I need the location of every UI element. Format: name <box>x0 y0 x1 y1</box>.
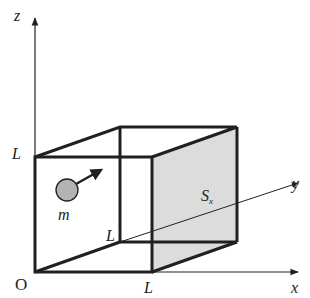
origin-label: O <box>15 276 27 293</box>
x-side-length-label: L <box>144 280 153 296</box>
face-sx-subscript: x <box>209 196 213 206</box>
particle-m <box>56 179 78 201</box>
cube-diagram: z y x O L L L m Sx <box>0 0 310 298</box>
velocity-arrow-icon <box>76 170 101 184</box>
z-axis-label: z <box>14 8 20 24</box>
diagram-drawing <box>0 0 310 298</box>
z-side-length-label: L <box>12 146 21 162</box>
y-axis-label: y <box>292 176 299 192</box>
cube-edge <box>35 242 120 272</box>
face-sx-main: S <box>201 187 209 204</box>
y-side-length-label: L <box>106 228 115 244</box>
particle-label: m <box>58 207 70 223</box>
shaded-face-sx <box>152 127 237 272</box>
x-axis-label: x <box>291 280 298 296</box>
face-sx-label: Sx <box>201 188 213 206</box>
